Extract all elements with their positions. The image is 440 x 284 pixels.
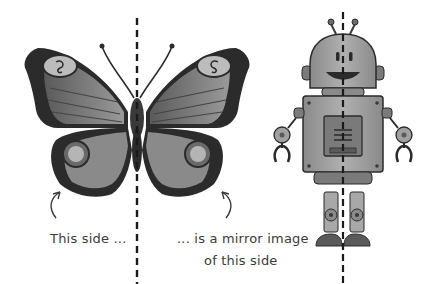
left-annotation: This side ... [50, 231, 126, 246]
right-annotation-line2: of this side [204, 253, 278, 268]
symmetry-illustration: This side ... ... is a mirror image of t… [0, 0, 440, 284]
right-annotation-line1: ... is a mirror image [177, 231, 309, 246]
